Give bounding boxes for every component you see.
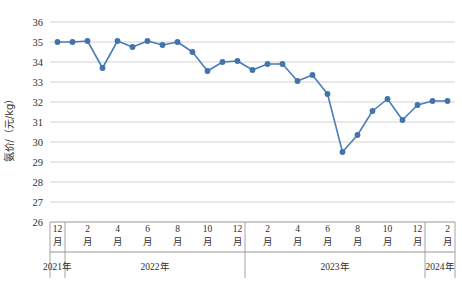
x-axis-tick-labels: 12月2月4月6月8月10月12月2月4月6月8月10月12月2月 [53, 224, 453, 247]
x-tick-month-unit: 月 [233, 236, 243, 247]
price-polyline [58, 41, 448, 152]
x-tick-month-number: 8 [175, 224, 180, 234]
year-group-label: 2021年 [43, 261, 72, 272]
y-axis-tick-labels: 2627282930313233343536 [33, 17, 44, 228]
year-group-label: 2023年 [321, 261, 350, 272]
axis-frame [50, 222, 455, 278]
x-tick-month-unit: 月 [323, 236, 333, 247]
data-point-marker [85, 38, 91, 44]
year-group-label: 2024年 [426, 261, 455, 272]
y-tick-label: 34 [33, 57, 44, 68]
y-axis-title: 氨价/（元/kg） [3, 94, 15, 163]
x-tick-month-unit: 月 [413, 236, 423, 247]
y-tick-label: 33 [33, 77, 44, 88]
data-point-marker [70, 39, 76, 45]
x-tick-month-number: 2 [265, 224, 270, 234]
x-tick-month-number: 2 [445, 224, 450, 234]
x-tick-month-number: 12 [53, 224, 63, 234]
x-tick-month-number: 12 [233, 224, 243, 234]
y-tick-label: 31 [33, 117, 44, 128]
data-point-marker [400, 117, 406, 123]
data-point-marker [340, 149, 346, 155]
data-point-marker [130, 44, 136, 50]
ammonia-price-chart: 2627282930313233343536 氨价/（元/kg） 12月2月4月… [0, 0, 462, 300]
data-point-marker [385, 96, 391, 102]
x-tick-month-number: 2 [85, 224, 90, 234]
x-tick-month-unit: 月 [173, 236, 183, 247]
data-point-marker [415, 102, 421, 108]
data-point-marker [205, 68, 211, 74]
x-tick-month-unit: 月 [353, 236, 363, 247]
price-data-markers [55, 38, 451, 155]
x-tick-month-number: 4 [295, 224, 300, 234]
data-point-marker [220, 59, 226, 65]
x-tick-month-unit: 月 [383, 236, 393, 247]
y-tick-label: 26 [33, 217, 44, 228]
y-tick-label: 29 [33, 157, 44, 168]
data-point-marker [100, 65, 106, 71]
x-tick-month-number: 12 [413, 224, 423, 234]
data-point-marker [235, 58, 241, 64]
data-point-marker [55, 39, 61, 45]
data-point-marker [160, 42, 166, 48]
x-tick-month-number: 6 [145, 224, 150, 234]
x-tick-month-unit: 月 [113, 236, 123, 247]
chart-canvas: 2627282930313233343536 氨价/（元/kg） 12月2月4月… [0, 0, 462, 300]
x-tick-month-unit: 月 [293, 236, 303, 247]
data-point-marker [370, 108, 376, 114]
data-point-marker [295, 78, 301, 84]
x-tick-month-number: 4 [115, 224, 120, 234]
y-axis-title-text: 氨价/（元/kg） [3, 94, 15, 163]
price-line-series [58, 41, 448, 152]
data-point-marker [145, 38, 151, 44]
data-point-marker [445, 98, 451, 104]
data-point-marker [430, 98, 436, 104]
year-group-label: 2022年 [141, 261, 170, 272]
data-point-marker [325, 91, 331, 97]
data-point-marker [280, 61, 286, 67]
data-point-marker [175, 39, 181, 45]
y-tick-label: 27 [33, 197, 44, 208]
y-tick-label: 36 [33, 17, 44, 28]
gridlines-group [50, 22, 455, 202]
data-point-marker [250, 67, 256, 73]
data-point-marker [265, 61, 271, 67]
x-tick-month-number: 6 [325, 224, 330, 234]
x-tick-month-number: 10 [383, 224, 393, 234]
y-tick-label: 28 [33, 177, 44, 188]
x-axis-year-labels: 2021年2022年2023年2024年 [43, 261, 455, 272]
x-tick-month-number: 8 [355, 224, 360, 234]
x-tick-month-unit: 月 [53, 236, 63, 247]
data-point-marker [310, 72, 316, 78]
x-tick-month-unit: 月 [83, 236, 93, 247]
y-tick-label: 32 [33, 97, 44, 108]
y-tick-label: 35 [33, 37, 44, 48]
y-tick-label: 30 [33, 137, 44, 148]
x-tick-month-number: 10 [203, 224, 213, 234]
x-tick-month-unit: 月 [143, 236, 153, 247]
x-tick-month-unit: 月 [203, 236, 213, 247]
data-point-marker [115, 38, 121, 44]
data-point-marker [355, 132, 361, 138]
x-tick-month-unit: 月 [443, 236, 453, 247]
x-tick-month-unit: 月 [263, 236, 273, 247]
data-point-marker [190, 49, 196, 55]
